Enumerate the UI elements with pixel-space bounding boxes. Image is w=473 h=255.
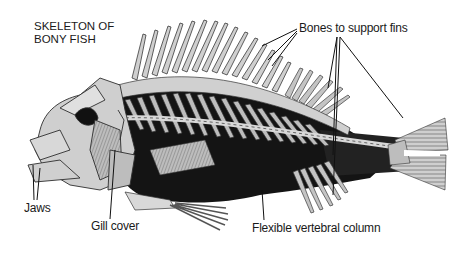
label-gill-cover: Gill cover: [91, 220, 139, 233]
caudal-fin: [388, 118, 448, 190]
title-line-2: BONY FISH: [34, 33, 114, 46]
diagram-title: SKELETON OF BONY FISH: [34, 20, 114, 45]
label-fin-bones: Bones to support fins: [299, 22, 408, 35]
skull: [28, 78, 135, 190]
label-jaws: Jaws: [24, 202, 51, 215]
fish-skeleton-diagram: SKELETON OF BONY FISH Bones to support f…: [0, 0, 473, 255]
label-vertebral-column: Flexible vertebral column: [252, 222, 380, 235]
title-line-1: SKELETON OF: [34, 20, 114, 33]
